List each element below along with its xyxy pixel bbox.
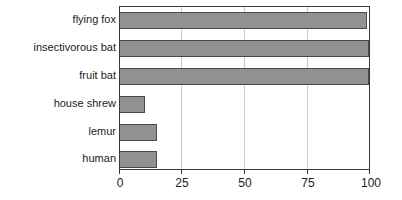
- xtick-label-100: 100: [351, 176, 391, 190]
- xtick-mark-0: [119, 170, 120, 174]
- gridline-50: [244, 7, 245, 169]
- xtick-mark-100: [369, 170, 370, 174]
- bar-chart: flying fox insectivorous bat fruit bat h…: [0, 0, 402, 200]
- bar-human: [120, 151, 157, 168]
- bar-lemur: [120, 124, 157, 141]
- xtick-label-50: 50: [225, 176, 265, 190]
- category-label-insectivorous-bat: insectivorous bat: [0, 41, 116, 54]
- category-label-flying-fox: flying fox: [0, 13, 116, 26]
- xtick-label-75: 75: [288, 176, 328, 190]
- bar-fruit-bat: [120, 68, 369, 85]
- xtick-label-25: 25: [162, 176, 202, 190]
- bar-house-shrew: [120, 96, 145, 113]
- xtick-mark-25: [181, 170, 182, 174]
- category-label-house-shrew: house shrew: [0, 97, 116, 110]
- category-label-human: human: [0, 152, 116, 165]
- bar-flying-fox: [120, 12, 367, 29]
- xtick-mark-50: [244, 170, 245, 174]
- gridline-25: [181, 7, 182, 169]
- xtick-mark-75: [307, 170, 308, 174]
- category-axis-labels: flying fox insectivorous bat fruit bat h…: [0, 0, 116, 200]
- category-label-fruit-bat: fruit bat: [0, 69, 116, 82]
- plot-area: [119, 6, 370, 170]
- category-label-lemur: lemur: [0, 125, 116, 138]
- gridline-75: [307, 7, 308, 169]
- bar-insectivorous-bat: [120, 40, 369, 57]
- xtick-label-0: 0: [100, 176, 140, 190]
